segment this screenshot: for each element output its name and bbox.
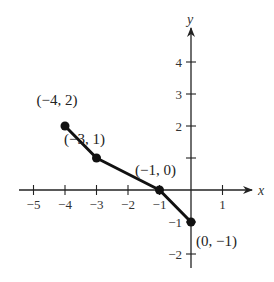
y-tick-label: 3 <box>176 87 183 102</box>
data-point <box>61 122 70 131</box>
data-point <box>187 218 196 227</box>
x-axis-label: x <box>257 183 265 198</box>
chart: xy −5−4−3−2−11432−1−2 (−4, 2)(−3, 1)(−1,… <box>0 0 274 282</box>
x-tick-label: −4 <box>58 197 72 212</box>
y-tick-label: −2 <box>168 247 182 262</box>
point-label: (0, −1) <box>196 233 237 250</box>
data-point <box>155 186 164 195</box>
point-labels: (−4, 2)(−3, 1)(−1, 0)(0, −1) <box>37 92 237 250</box>
point-label: (−1, 0) <box>135 162 176 179</box>
axes: xy <box>19 12 265 268</box>
ticks: −5−4−3−2−11432−1−2 <box>27 55 226 262</box>
y-tick-label: 4 <box>176 55 183 70</box>
x-tick-label: 1 <box>219 197 226 212</box>
y-tick-label: −1 <box>168 215 182 230</box>
x-tick-label: −1 <box>153 197 167 212</box>
x-tick-label: −5 <box>27 197 41 212</box>
point-label: (−3, 1) <box>64 131 105 148</box>
y-tick-label: 2 <box>176 119 183 134</box>
x-tick-label: −2 <box>121 197 135 212</box>
y-axis-label: y <box>185 12 194 27</box>
x-tick-label: −3 <box>90 197 104 212</box>
point-label: (−4, 2) <box>37 92 78 109</box>
data-point <box>92 154 101 163</box>
